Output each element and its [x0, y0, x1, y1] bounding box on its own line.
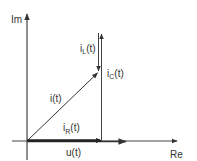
- real-axis-label: Re: [170, 149, 183, 160]
- label-iL: iL(t): [80, 43, 96, 55]
- imaginary-axis-label: Im: [11, 14, 22, 25]
- phasor-diagram: Im Re iL(t) iC(t) i(t) iR(t) u(t): [0, 0, 197, 161]
- label-iR: iR(t): [63, 122, 80, 135]
- phasor-iR: [27, 138, 102, 143]
- label-u: u(t): [66, 147, 81, 158]
- label-iC: iC(t): [107, 68, 124, 80]
- label-i: i(t): [50, 93, 62, 104]
